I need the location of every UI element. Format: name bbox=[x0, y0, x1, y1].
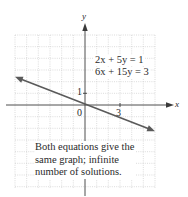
y-axis-label: y bbox=[82, 12, 86, 21]
annotation-text: Both equations give the same graph; infi… bbox=[35, 141, 135, 179]
equation-1: 2x + 5y = 1 bbox=[94, 55, 145, 66]
y-axis-arrow-icon bbox=[82, 23, 87, 31]
origin-label: 0 bbox=[77, 108, 82, 118]
x-axis-arrow-icon bbox=[166, 102, 174, 107]
equation-2: 6x + 15y = 3 bbox=[94, 67, 150, 78]
x-axis-label: x bbox=[175, 100, 179, 109]
x-tick-label: 3 bbox=[116, 108, 121, 118]
y-tick-label: 1 bbox=[77, 87, 82, 97]
